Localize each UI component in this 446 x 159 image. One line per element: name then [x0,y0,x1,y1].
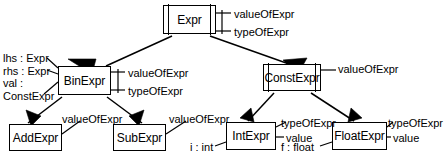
edge-constexpr-to-expr [210,36,289,64]
class-box-constexpr[interactable]: ConstExpr [263,64,321,91]
label-constexpr-valueofexpr: valueOfExpr [338,63,399,75]
class-box-subexpr[interactable]: SubExpr [113,124,166,151]
class-name-constexpr: ConstExpr [264,72,319,84]
class-box-intexpr[interactable]: IntExpr [226,122,276,150]
class-name-addexpr: AddExpr [13,132,58,144]
label-floatexpr-value: value [393,132,419,144]
class-name-binexpr: BinExpr [64,75,105,87]
class-name-floatexpr: FloatExpr [334,130,384,142]
label-expr-valueofexpr: valueOfExpr [234,8,295,20]
class-box-expr[interactable]: Expr [163,5,216,34]
class-box-binexpr[interactable]: BinExpr [58,66,111,95]
uml-class-diagram: Expr BinExpr ConstExpr AddExpr SubExpr I… [0,0,446,159]
label-floatexpr-typeofexpr: typeOfExpr [388,117,443,129]
label-intexpr-field: i : int [190,141,213,153]
label-subexpr-valueofexpr: valueOfExpr [169,113,230,125]
class-name-expr: Expr [177,14,201,26]
label-binexpr-typeofexpr: typeOfExpr [128,85,183,97]
edge-binexpr-to-expr [106,36,172,66]
class-box-addexpr[interactable]: AddExpr [9,124,62,151]
leader-intexpr-field [215,142,226,146]
label-addexpr-valueofexpr: valueOfExpr [62,113,123,125]
arrowhead-floatexpr-to-constexpr [348,108,362,122]
label-expr-typeofexpr: typeOfExpr [234,26,289,38]
label-floatexpr-field: f : float [281,141,314,153]
label-binexpr-attributes: lhs : Expr rhs : Expr val : ConstExpr [3,52,54,102]
label-intexpr-typeofexpr: typeOfExpr [281,117,336,129]
leader-floatexpr-field [320,142,332,146]
class-name-subexpr: SubExpr [117,132,162,144]
label-binexpr-valueofexpr: valueOfExpr [128,67,189,79]
arrowhead-intexpr-to-constexpr [240,108,254,122]
class-name-intexpr: IntExpr [232,130,269,142]
class-box-floatexpr[interactable]: FloatExpr [332,122,387,150]
